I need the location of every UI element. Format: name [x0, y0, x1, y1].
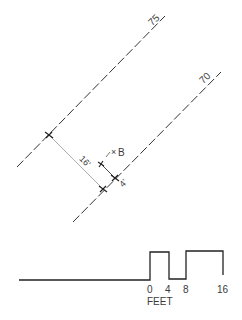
dimension-label-16ft: 16'	[77, 154, 93, 170]
scale-bar	[19, 251, 223, 280]
scale-unit-label: FEET	[147, 296, 173, 307]
contour-label-70: 70	[197, 70, 213, 86]
dimension-label-4ft: 4'	[117, 177, 129, 189]
contour-line-70	[73, 72, 221, 222]
scale-tick-4: 4	[165, 284, 171, 295]
extension-dash	[106, 152, 110, 157]
point-b-label: B	[118, 147, 125, 158]
marker-on-70-icon	[111, 175, 119, 181]
contour-diagram: 75 70 16' 4' × B 0 4 8 16 FEET	[0, 0, 242, 320]
contour-label-75: 75	[146, 12, 162, 28]
contour-line-75	[17, 16, 165, 167]
scale-tick-8: 8	[183, 284, 189, 295]
dimension-line-16ft	[49, 135, 103, 189]
scale-tick-0: 0	[147, 284, 153, 295]
marker-upper-icon	[45, 132, 53, 138]
scale-tick-16: 16	[217, 284, 229, 295]
point-b-symbol: ×	[111, 147, 116, 157]
